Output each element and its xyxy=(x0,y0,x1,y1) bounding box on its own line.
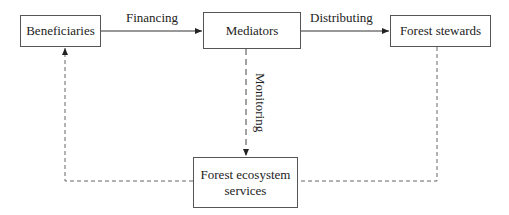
ecosystem-services-label-line1: Forest ecosystem xyxy=(201,167,291,183)
mediators-label: Mediators xyxy=(226,23,279,39)
ecosystem-services-label-line2: services xyxy=(225,183,267,199)
beneficiaries-node: Beneficiaries xyxy=(20,15,101,47)
forest-stewards-label: Forest stewards xyxy=(400,23,481,39)
mediators-node: Mediators xyxy=(203,12,301,49)
distributing-label: Distributing xyxy=(310,10,373,26)
beneficiaries-label: Beneficiaries xyxy=(26,23,95,39)
forest-stewards-node: Forest stewards xyxy=(390,15,491,47)
forest-ecosystem-services-node: Forest ecosystem services xyxy=(193,157,298,208)
monitoring-label: Monitoring xyxy=(252,73,268,132)
financing-label: Financing xyxy=(126,10,178,26)
services-to-beneficiaries-arrow xyxy=(65,48,193,181)
flow-diagram: Beneficiaries Mediators Forest stewards … xyxy=(0,0,509,215)
stewards-to-services-line xyxy=(298,47,437,181)
